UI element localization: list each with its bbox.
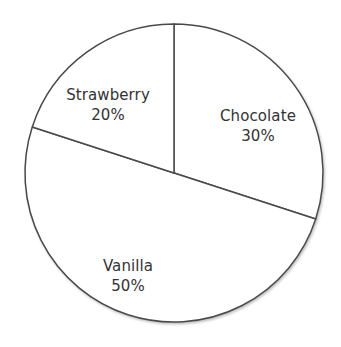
pie-label-chocolate-name: Chocolate	[196, 106, 320, 126]
pie-label-vanilla: Vanilla 50%	[66, 256, 190, 296]
pie-label-vanilla-name: Vanilla	[66, 256, 190, 276]
pie-label-strawberry-name: Strawberry	[44, 85, 172, 105]
pie-label-chocolate-value: 30%	[196, 126, 320, 146]
pie-label-strawberry-value: 20%	[44, 105, 172, 125]
pie-label-chocolate: Chocolate 30%	[196, 106, 320, 146]
pie-chart: Strawberry 20% Chocolate 30% Vanilla 50%	[0, 0, 341, 347]
pie-label-vanilla-value: 50%	[66, 276, 190, 296]
pie-label-strawberry: Strawberry 20%	[44, 85, 172, 125]
